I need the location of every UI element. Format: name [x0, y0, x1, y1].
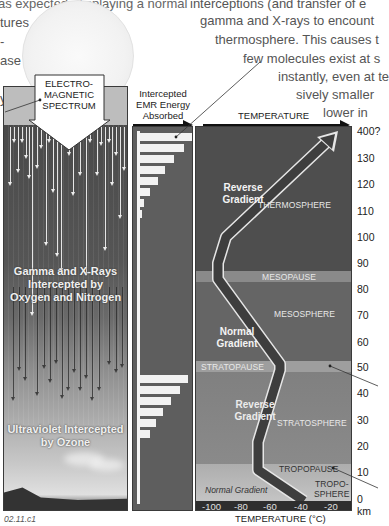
x-axis-title: TEMPERATURE (°C) — [235, 513, 326, 524]
figure-caption: 02.11.c1 — [4, 514, 36, 524]
